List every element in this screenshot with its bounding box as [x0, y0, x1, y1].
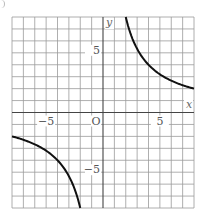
x-axis-label: x: [186, 98, 193, 111]
hyperbola-chart: −555−5Oxy: [0, 0, 199, 218]
origin-label: O: [91, 115, 100, 128]
x-tick-label: 5: [156, 115, 163, 128]
y-tick-label: 5: [93, 44, 100, 57]
y-axis-label: y: [105, 16, 113, 29]
y-tick-label: −5: [84, 163, 100, 176]
x-tick-label: −5: [38, 115, 54, 128]
